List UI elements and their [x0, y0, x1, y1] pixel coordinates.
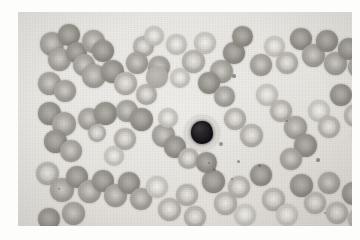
red-blood-cell: [146, 176, 168, 198]
platelet: [316, 158, 320, 162]
red-blood-cell: [326, 202, 348, 224]
red-blood-cell: [276, 204, 298, 226]
chromatin-clump: [237, 160, 240, 163]
stain-debris-speck: [286, 120, 288, 122]
red-blood-cell: [126, 52, 148, 74]
red-blood-cell: [130, 108, 153, 131]
red-blood-cell: [304, 192, 326, 214]
red-blood-cell: [88, 124, 106, 142]
red-blood-cell: [184, 206, 206, 226]
red-blood-cell: [202, 170, 225, 193]
red-blood-cell: [38, 208, 60, 226]
stain-debris-speck: [208, 162, 210, 164]
micrograph-plate: [18, 12, 352, 226]
chromatin-clump: [219, 142, 223, 146]
red-blood-cell: [250, 54, 272, 76]
red-blood-cell: [214, 86, 235, 107]
red-blood-cell: [62, 202, 85, 225]
red-blood-cell: [170, 68, 190, 88]
red-blood-cell: [318, 116, 340, 138]
red-blood-cell: [234, 204, 256, 226]
red-blood-cell: [158, 108, 178, 128]
chromatin-clump: [231, 178, 233, 180]
platelet: [232, 74, 236, 78]
red-blood-cell: [54, 80, 76, 102]
red-blood-cell: [194, 32, 216, 54]
chromatin-clump: [213, 168, 216, 171]
red-blood-cell: [94, 102, 117, 125]
stain-debris-speck: [324, 212, 326, 214]
red-blood-cell: [240, 124, 263, 147]
red-blood-cell: [114, 72, 137, 95]
stain-debris-speck: [258, 164, 261, 167]
red-blood-cell: [280, 148, 302, 170]
stain-debris-speck: [58, 188, 60, 190]
red-blood-cell: [166, 34, 187, 55]
red-blood-cell: [276, 52, 298, 74]
red-blood-cell: [316, 30, 338, 52]
red-blood-cell: [92, 40, 114, 62]
wbc-nucleus: [191, 121, 212, 143]
red-blood-cell: [330, 84, 352, 106]
red-blood-cell: [60, 140, 82, 162]
red-blood-cell: [232, 26, 253, 47]
red-blood-cell: [318, 172, 340, 194]
screenshot-root: [0, 0, 360, 240]
red-blood-cell: [144, 26, 164, 46]
white-blood-cell: [185, 116, 219, 150]
red-blood-cell: [104, 146, 124, 166]
red-blood-cell: [250, 164, 272, 186]
red-blood-cell: [176, 184, 198, 206]
